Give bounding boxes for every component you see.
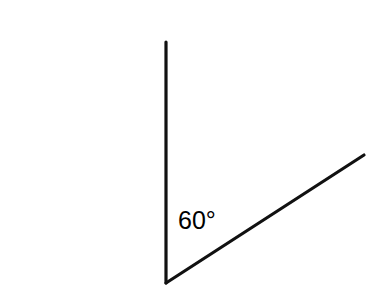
diagram-background [0,0,377,302]
angle-diagram: 60° [0,0,377,302]
angle-label: 60° [178,206,216,234]
